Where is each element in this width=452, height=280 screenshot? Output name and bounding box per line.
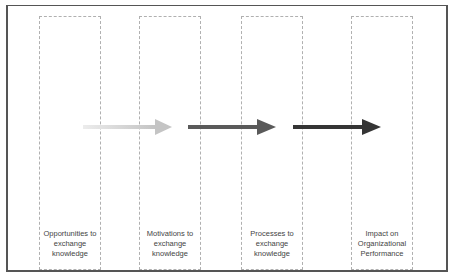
stage-label-opportunities: Opportunities to exchange knowledge [40, 229, 100, 259]
stage-box-impact: Impact on Organizational Performance [351, 16, 413, 270]
stage-box-processes: Processes to exchange knowledge [241, 16, 303, 270]
stage-label-processes: Processes to exchange knowledge [242, 229, 302, 259]
arrow-right-icon [83, 119, 172, 135]
arrow-right-icon [188, 119, 276, 135]
arrow-right-icon [293, 119, 381, 135]
stage-label-impact: Impact on Organizational Performance [352, 229, 412, 259]
stage-label-motivations: Motivations to exchange knowledge [140, 229, 200, 259]
stage-box-motivations: Motivations to exchange knowledge [139, 16, 201, 270]
stage-box-opportunities: Opportunities to exchange knowledge [39, 16, 101, 270]
